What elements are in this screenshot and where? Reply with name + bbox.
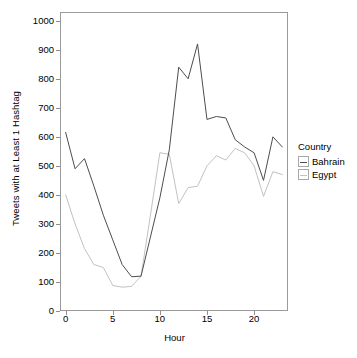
x-axis-title: Hour [60,332,289,343]
legend-item: Bahrain [298,155,356,168]
x-tick-label: 10 [155,314,166,324]
legend-items: BahrainEgypt [298,155,356,181]
x-tick-label: 20 [249,314,260,324]
legend-item-label: Bahrain [312,156,345,167]
legend-item: Egypt [298,168,356,181]
x-tick-label: 5 [110,314,115,324]
legend-title: Country [298,141,356,153]
legend-line-sample [300,175,307,176]
line-chart: Tweets with at Least 1 Hashtag 010020030… [0,0,357,358]
legend-item-label: Egypt [312,169,336,180]
legend-key-bahrain [298,156,309,167]
legend: Country BahrainEgypt [298,141,356,181]
x-tick-label: 15 [202,314,213,324]
legend-line-sample [300,162,307,163]
x-tick-label: 0 [63,314,68,324]
legend-key-egypt [298,169,309,180]
